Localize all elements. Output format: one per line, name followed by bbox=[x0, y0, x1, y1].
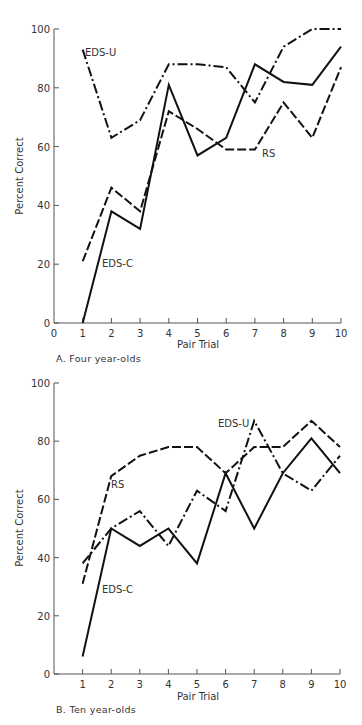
x-ticks-b: 12345678910 bbox=[79, 669, 346, 690]
y-tick-label: 100 bbox=[31, 378, 50, 389]
x-tick-label: 3 bbox=[137, 328, 143, 339]
x-tick-label: 9 bbox=[308, 679, 314, 690]
y-axis-title-b: Percent Correct bbox=[14, 489, 25, 566]
x-axis-title-a: Pair Trial bbox=[177, 339, 219, 350]
x-tick-label: 2 bbox=[108, 328, 114, 339]
panel-caption-b: B. Ten year-olds bbox=[56, 704, 136, 715]
chart-a: 020406080100 012345678910 Percent Correc… bbox=[14, 24, 347, 364]
x-tick-label: 3 bbox=[137, 679, 143, 690]
series-label-rs-a: RS bbox=[262, 148, 275, 159]
x-tick-label: 4 bbox=[165, 679, 171, 690]
y-tick-label: 20 bbox=[37, 611, 50, 622]
series-group-b bbox=[83, 421, 340, 657]
x-tick-label: 10 bbox=[334, 679, 347, 690]
x-tick-label: 4 bbox=[166, 328, 172, 339]
x-tick-label: 0 bbox=[51, 328, 57, 339]
chart-b: 020406080100 12345678910 Percent Correct… bbox=[14, 378, 346, 715]
x-tick-label: 7 bbox=[252, 328, 258, 339]
series-label-eds-c-b: EDS-C bbox=[102, 584, 133, 595]
series-line-eds-c bbox=[83, 47, 341, 323]
series-line-rs bbox=[83, 421, 340, 584]
x-tick-label: 8 bbox=[280, 679, 286, 690]
y-tick-label: 80 bbox=[37, 83, 50, 94]
x-axis-title-b: Pair Trial bbox=[177, 691, 219, 702]
y-ticks-b: 020406080100 bbox=[31, 378, 59, 680]
x-tick-label: 1 bbox=[80, 328, 86, 339]
x-tick-label: 8 bbox=[280, 328, 286, 339]
y-tick-label: 60 bbox=[37, 494, 50, 505]
x-tick-label: 5 bbox=[194, 328, 200, 339]
series-line-eds-c bbox=[83, 438, 340, 656]
x-tick-label: 10 bbox=[335, 328, 348, 339]
series-line-eds-u bbox=[83, 421, 340, 564]
y-tick-label: 20 bbox=[37, 259, 50, 270]
y-axis-title-a: Percent Correct bbox=[14, 137, 25, 214]
y-tick-label: 40 bbox=[37, 200, 50, 211]
x-ticks-a: 012345678910 bbox=[51, 318, 348, 339]
series-label-eds-u-a: EDS-U bbox=[85, 47, 116, 58]
y-ticks-a: 020406080100 bbox=[31, 24, 59, 329]
x-tick-label: 2 bbox=[108, 679, 114, 690]
y-tick-label: 80 bbox=[37, 436, 50, 447]
x-tick-label: 5 bbox=[194, 679, 200, 690]
x-tick-label: 7 bbox=[251, 679, 257, 690]
series-label-eds-c-a: EDS-C bbox=[102, 258, 133, 269]
x-tick-label: 6 bbox=[222, 679, 228, 690]
series-label-rs-b: RS bbox=[111, 479, 124, 490]
series-group-a bbox=[83, 29, 341, 323]
x-tick-label: 6 bbox=[223, 328, 229, 339]
figure: 020406080100 012345678910 Percent Correc… bbox=[0, 0, 362, 725]
y-tick-label: 40 bbox=[37, 553, 50, 564]
series-label-eds-u-b: EDS-U bbox=[218, 418, 249, 429]
x-tick-label: 9 bbox=[309, 328, 315, 339]
x-tick-label: 1 bbox=[79, 679, 85, 690]
y-tick-label: 100 bbox=[31, 24, 50, 35]
series-line-rs bbox=[83, 67, 341, 261]
y-tick-label: 0 bbox=[44, 318, 50, 329]
y-tick-label: 0 bbox=[44, 669, 50, 680]
y-tick-label: 60 bbox=[37, 142, 50, 153]
panel-caption-a: A. Four year-olds bbox=[56, 353, 141, 364]
